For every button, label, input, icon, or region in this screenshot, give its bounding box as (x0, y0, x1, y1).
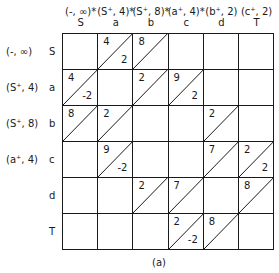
forward-value: 7 (209, 145, 215, 155)
matrix-cell: 42 (97, 33, 133, 70)
matrix-cell (238, 213, 274, 250)
forward-value: 7 (174, 181, 180, 191)
matrix-cell: 7 (203, 141, 239, 178)
matrix-cell (168, 33, 204, 70)
forward-value: 2 (209, 109, 215, 119)
matrix-cell: 8 (203, 213, 239, 250)
forward-value: 8 (244, 181, 250, 191)
forward-value: 8 (138, 37, 144, 47)
reverse-value: 2 (262, 163, 268, 173)
column-node: S (71, 18, 91, 28)
column-node: c (176, 18, 196, 28)
matrix-cell: 2 (132, 177, 168, 214)
forward-value: 2 (103, 109, 109, 119)
reverse-value: 2 (121, 55, 127, 65)
forward-value: 2 (138, 181, 144, 191)
reverse-value: -2 (188, 235, 198, 245)
reverse-value: 2 (191, 91, 197, 101)
matrix-cell: 2-2 (168, 213, 204, 250)
forward-value: 4 (68, 73, 74, 83)
row-node: T (49, 227, 55, 237)
matrix-cell (62, 177, 98, 214)
row-label: (a⁺, 4) (6, 155, 38, 165)
forward-value: 9 (103, 145, 109, 155)
matrix-cell (168, 105, 204, 142)
matrix-cell (62, 213, 98, 250)
reverse-value: -2 (117, 163, 127, 173)
matrix-cell: 9-2 (97, 141, 133, 178)
matrix-cell (132, 141, 168, 178)
matrix-cell: 8 (62, 105, 98, 142)
row-node: a (49, 83, 55, 93)
matrix-cell: 4-2 (62, 69, 98, 106)
matrix-cell: 92 (168, 69, 204, 106)
matrix-cell (62, 141, 98, 178)
matrix-cell: 2 (203, 105, 239, 142)
column-node: a (106, 18, 126, 28)
matrix-cell (203, 69, 239, 106)
column-node: T (247, 18, 267, 28)
forward-value: 9 (174, 73, 180, 83)
matrix-cell (132, 213, 168, 250)
matrix-cell (62, 33, 98, 70)
matrix-cell (97, 69, 133, 106)
figure-caption: (a) (152, 257, 166, 268)
matrix-cell (97, 177, 133, 214)
row-node: d (49, 191, 55, 201)
matrix-cell (168, 141, 204, 178)
reverse-value: -2 (82, 91, 92, 101)
row-node: b (49, 119, 55, 129)
column-node: b (141, 18, 161, 28)
matrix-cell (238, 33, 274, 70)
matrix-cell (132, 105, 168, 142)
column-label: (c⁺, 2) (235, 7, 279, 17)
flow-matrix-grid: 4284-22928229-27222782-28 (63, 34, 274, 250)
forward-value: 2 (244, 145, 250, 155)
forward-value: 8 (68, 109, 74, 119)
forward-value: 2 (138, 73, 144, 83)
matrix-cell (238, 69, 274, 106)
row-label: (S⁺, 8) (6, 119, 38, 129)
row-label: (-, ∞) (6, 47, 32, 57)
matrix-cell: 2 (97, 105, 133, 142)
matrix-cell (203, 177, 239, 214)
forward-value: 2 (174, 217, 180, 227)
row-label: (S⁺, 4) (6, 83, 38, 93)
matrix-cell (203, 33, 239, 70)
column-node: d (211, 18, 231, 28)
matrix-cell: 7 (168, 177, 204, 214)
forward-value: 4 (103, 37, 109, 47)
matrix-cell: 8 (132, 33, 168, 70)
matrix-cell (238, 105, 274, 142)
matrix-cell: 8 (238, 177, 274, 214)
row-node: c (49, 155, 55, 165)
row-node: S (49, 47, 55, 57)
matrix-cell (97, 213, 133, 250)
matrix-cell: 2 (132, 69, 168, 106)
forward-value: 8 (209, 217, 215, 227)
matrix-cell: 22 (238, 141, 274, 178)
